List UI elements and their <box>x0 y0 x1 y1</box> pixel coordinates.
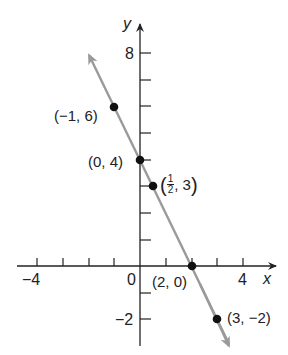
x-tick-label-neg4: −4 <box>22 272 40 288</box>
coordinate-plane <box>0 0 288 355</box>
point-0-4 <box>136 156 145 165</box>
x-tick-label-4: 4 <box>238 272 247 288</box>
point-label-2-0: (2, 0) <box>152 274 187 289</box>
point-label-3-neg2: (3, −2) <box>227 310 271 325</box>
y-tick-label-8: 8 <box>125 46 134 62</box>
y-axis-label: y <box>123 16 131 32</box>
point-2-0 <box>188 262 197 271</box>
graph-line-arrow-end <box>200 284 229 346</box>
point-3-neg2 <box>213 315 222 324</box>
point-neg1-6 <box>110 103 119 112</box>
point-label-0-4: (0, 4) <box>88 154 123 169</box>
point-half-3 <box>149 182 158 191</box>
x-axis-label: x <box>263 271 271 287</box>
x-tick-label-0: 0 <box>127 272 136 288</box>
point-label-half-3: (12, 3) <box>160 174 198 195</box>
point-label-neg1-6: (−1, 6) <box>54 108 98 123</box>
y-tick-label-neg2: −2 <box>115 312 133 328</box>
